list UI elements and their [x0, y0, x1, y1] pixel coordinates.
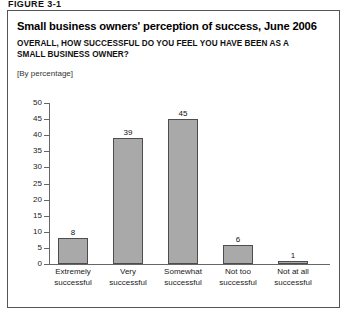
bar: 1: [278, 261, 308, 264]
x-axis-category-label-line: successful: [152, 278, 214, 289]
y-axis-tick-label: 40: [33, 130, 42, 139]
figure-box: Small business owners' perception of suc…: [7, 10, 340, 308]
bar: 8: [58, 238, 88, 264]
bar-value-label: 39: [124, 128, 133, 137]
x-axis-category-label-line: Very: [97, 267, 159, 278]
x-axis-category-label: Extremelysuccessful: [42, 267, 104, 288]
bar-value-label: 45: [179, 109, 188, 118]
bar-value-label: 6: [236, 235, 240, 244]
x-axis-category-labels: ExtremelysuccessfulVerysuccessfulSomewha…: [50, 267, 330, 301]
x-axis-line: [49, 264, 330, 265]
bar-value-label: 8: [71, 228, 75, 237]
units-note: [By percentage]: [17, 69, 73, 79]
chart-plot-area: 05101520253035404550 8394561: [42, 94, 330, 274]
figure-label: FIGURE 3-1: [8, 0, 128, 8]
x-axis-category-label-line: successful: [262, 278, 324, 289]
y-axis-tick-label: 5: [38, 243, 42, 252]
x-axis-category-label-line: successful: [42, 278, 104, 289]
y-axis-tick-label: 50: [33, 98, 42, 107]
y-axis-tick-label: 15: [33, 211, 42, 220]
x-axis-category-label-line: Extremely: [42, 267, 104, 278]
y-axis-tick-label: 25: [33, 179, 42, 188]
chart-question-subtitle: OVERALL, HOW SUCCESSFUL DO YOU FEEL YOU …: [17, 39, 317, 60]
x-axis-category-label-line: Not at all: [262, 267, 324, 278]
x-axis-category-label: Verysuccessful: [97, 267, 159, 288]
bar: 39: [113, 138, 143, 264]
y-axis-tick-label: 10: [33, 227, 42, 236]
y-axis-tick-label: 45: [33, 114, 42, 123]
x-axis-category-label: Not at allsuccessful: [262, 267, 324, 288]
y-axis-tick-label: 30: [33, 162, 42, 171]
x-axis-category-label-line: Somewhat: [152, 267, 214, 278]
y-axis-tick-label: 35: [33, 146, 42, 155]
x-axis-category-label: Not toosuccessful: [207, 267, 269, 288]
bar: 45: [168, 119, 198, 264]
y-axis-tick-label: 20: [33, 195, 42, 204]
x-axis-category-label-line: successful: [207, 278, 269, 289]
bar: 6: [223, 245, 253, 264]
figure-root: FIGURE 3-1 Small business owners' percep…: [0, 0, 347, 313]
x-axis-category-label-line: successful: [97, 278, 159, 289]
x-axis-category-label: Somewhatsuccessful: [152, 267, 214, 288]
bar-value-label: 1: [291, 251, 295, 260]
x-axis-category-label-line: Not too: [207, 267, 269, 278]
page-title: Small business owners' perception of suc…: [17, 20, 333, 33]
y-axis-tick: 0: [44, 264, 50, 265]
bar-series: 8394561: [50, 103, 330, 264]
